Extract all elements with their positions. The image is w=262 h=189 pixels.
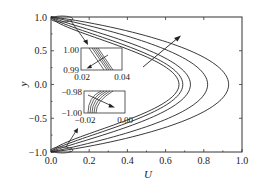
x-ticks (51, 17, 242, 152)
x-tick-label: 1.0 (236, 155, 249, 166)
y-tick-label: −0.5 (29, 113, 47, 124)
curve-1 (51, 17, 179, 152)
x-tick-label: 0.4 (121, 155, 134, 166)
curve-4 (51, 17, 208, 152)
plot-frame (51, 17, 242, 152)
inset-top-y-top: 1.00 (63, 45, 79, 55)
inset-top: 1.00 0.99 0.02 0.04 (63, 45, 130, 82)
x-tick-label: 0.2 (83, 155, 96, 166)
y-tick-label: 0.5 (35, 45, 48, 56)
y-tick-label: 1.0 (35, 12, 48, 23)
curve-3 (51, 17, 190, 152)
chart: 0.0 0.2 0.4 0.6 0.8 1.0 1.0 0.5 0.0 −0.5… (0, 0, 262, 189)
x-axis-label: U (144, 168, 153, 180)
curve-2 (51, 17, 183, 152)
y-tick-label: 0.0 (35, 79, 48, 90)
y-ticks (51, 17, 242, 152)
y-axis-label: y (17, 81, 29, 87)
x-tick-label: 0.8 (198, 155, 211, 166)
inset-top-x-left: 0.02 (74, 72, 90, 82)
inset-pointer-arrow-icon (66, 21, 88, 147)
x-tick-label: 0.6 (159, 155, 172, 166)
inset-bottom-y-top: −0.98 (61, 87, 82, 97)
inset-bottom-x-left: −0.02 (75, 115, 96, 125)
inset-top-x-right: 0.04 (114, 72, 130, 82)
inset-bottom-x-right: 0.00 (117, 115, 133, 125)
y-tick-label: −1.0 (29, 147, 47, 158)
inset-bottom: −0.98 −1.00 −0.02 0.00 (61, 87, 133, 125)
